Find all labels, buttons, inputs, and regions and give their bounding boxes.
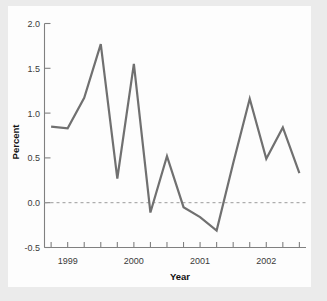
y-tick-label-5: 2.0	[27, 19, 40, 29]
x-tick-label-1: 2000	[124, 256, 144, 266]
y-tick-label-3: 1.0	[27, 109, 40, 119]
chart-screenshot: 2.0 1.5 1.0 0.5 0.0 -0.5 199920002001200…	[0, 0, 327, 301]
y-axis-ticks	[45, 24, 51, 248]
x-axis-tick-labels: 1999200020012002	[58, 256, 277, 266]
line-chart: 2.0 1.5 1.0 0.5 0.0 -0.5 199920002001200…	[0, 0, 327, 301]
y-axis-title: Percent	[10, 124, 21, 160]
x-tick-label-3: 2002	[256, 256, 276, 266]
x-axis-title: Year	[170, 271, 190, 282]
x-axis-ticks	[51, 242, 299, 248]
x-tick-label-0: 1999	[58, 256, 78, 266]
x-tick-label-2: 2001	[190, 256, 210, 266]
y-tick-label-2: 0.5	[27, 153, 40, 163]
y-axis-tick-labels: 2.0 1.5 1.0 0.5 0.0 -0.5	[24, 19, 40, 253]
y-tick-label-0: -0.5	[24, 243, 40, 253]
y-tick-label-4: 1.5	[27, 64, 40, 74]
y-tick-label-1: 0.0	[27, 198, 40, 208]
